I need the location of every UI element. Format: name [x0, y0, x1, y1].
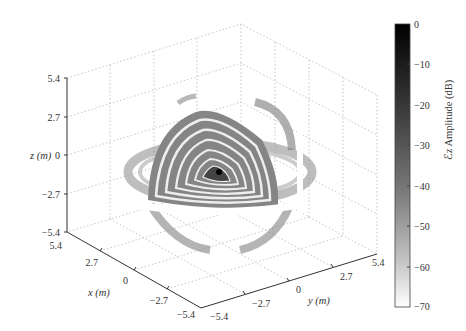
svg-text:−5.4: −5.4 — [42, 227, 60, 238]
svg-text:−2.7: −2.7 — [252, 298, 270, 309]
svg-text:−20: −20 — [414, 100, 430, 111]
svg-text:−30: −30 — [414, 140, 430, 151]
colorbar: 0 −10 −20 −30 −40 −50 −60 −70 ℰz Amplitu… — [395, 19, 455, 312]
svg-text:5.4: 5.4 — [372, 257, 385, 268]
svg-text:0: 0 — [55, 150, 60, 161]
svg-text:0: 0 — [414, 19, 419, 30]
x-axis-label: x (m) — [87, 287, 110, 299]
svg-text:−50: −50 — [414, 221, 430, 232]
svg-text:5.4: 5.4 — [50, 240, 63, 251]
svg-text:−2.7: −2.7 — [150, 295, 168, 306]
svg-text:2.7: 2.7 — [86, 257, 99, 268]
svg-text:−2.7: −2.7 — [42, 189, 60, 200]
svg-text:−5.4: −5.4 — [177, 309, 195, 320]
svg-text:0: 0 — [296, 284, 301, 295]
svg-text:−5.4: −5.4 — [210, 311, 228, 322]
svg-text:−70: −70 — [414, 301, 430, 312]
svg-text:0: 0 — [123, 275, 128, 286]
z-axis-label: z (m) — [29, 150, 52, 162]
colorbar-label: ℰz Amplitude (dB) — [443, 79, 455, 160]
x-tick-labels: 5.4 2.7 0 −2.7 −5.4 — [50, 240, 196, 320]
svg-text:−60: −60 — [414, 262, 430, 273]
svg-text:2.7: 2.7 — [48, 112, 61, 123]
y-axis-label: y (m) — [307, 295, 330, 307]
svg-text:2.7: 2.7 — [340, 271, 353, 282]
3d-slice-plot: 5.4 2.7 0 −2.7 −5.4 z (m) 5.4 2.7 0 −2.7… — [0, 0, 466, 331]
field-slices — [128, 96, 312, 250]
svg-text:5.4: 5.4 — [48, 73, 61, 84]
svg-text:−40: −40 — [414, 181, 430, 192]
svg-text:−10: −10 — [414, 59, 430, 70]
